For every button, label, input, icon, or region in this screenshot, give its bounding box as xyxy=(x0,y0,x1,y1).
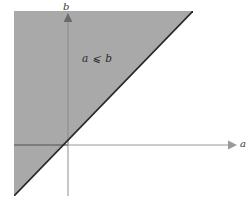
vertical-axis-label: b xyxy=(63,2,69,12)
region-inequality-label: a ⩽ b xyxy=(82,52,112,64)
plot-canvas xyxy=(0,0,251,210)
horizontal-axis-label: a xyxy=(240,139,246,149)
arrow-right-icon xyxy=(228,141,237,150)
inequality-region-figure: b a a ⩽ b xyxy=(0,0,251,210)
